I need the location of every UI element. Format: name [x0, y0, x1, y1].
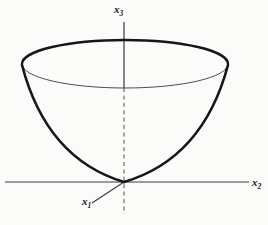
axis-label-x2: x2 [252, 177, 261, 191]
axis-label-x1: x1 [82, 196, 91, 210]
paraboloid-right-branch [124, 65, 228, 182]
axis-label-x2-sub: 2 [258, 182, 262, 191]
rim-ellipse-front-arc [22, 64, 228, 88]
depth-axis-line [92, 182, 124, 203]
axis-label-x3: x3 [114, 4, 123, 18]
axis-label-x1-sub: 1 [88, 201, 92, 210]
paraboloid-left-branch [22, 65, 124, 182]
axis-label-x3-sub: 3 [120, 9, 124, 18]
paraboloid-figure: x3 x2 x1 [0, 0, 268, 225]
rim-ellipse-back-arc [22, 40, 228, 64]
figure-canvas [0, 0, 268, 225]
